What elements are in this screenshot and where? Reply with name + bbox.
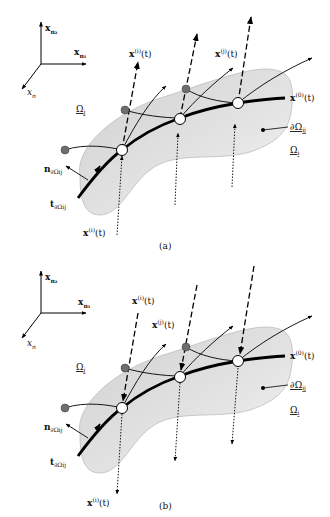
label-xj-i: x(i)(t) [132,294,155,306]
label-x-i: x(i)(t) [83,226,106,238]
label-normal: n∂Ωij [44,422,63,434]
label-omega-i: Ωi [290,405,299,416]
label-boundary: ∂Ωij [290,122,306,134]
label-normal: n∂Ωij [44,164,63,176]
label-x-i: x(i)(t) [87,496,110,508]
caption-a: (a) [159,241,171,251]
panel-a: xn₂ xn₁ xn [0,0,330,258]
label-x-j: x(j)(t) [152,318,175,330]
axis-label-xn1: xn₁ [74,47,87,59]
diagram-a: xn₂ xn₁ xn [0,0,330,258]
caption-b: (b) [159,501,172,511]
axis-label-xn2: xn₂ [45,23,58,35]
panel-b: xn₂ xn₁ xn [0,258,330,517]
label-x-0: x(0)(t) [290,91,315,103]
coordinate-axes: xn₂ xn₁ xn [22,22,87,99]
label-x-0: x(0)(t) [290,349,315,361]
axis-label-xn1: xn₁ [78,297,91,309]
coordinate-axes: xn₂ xn₁ xn [22,271,91,350]
axis-label-xn: xn [27,87,36,99]
axis-label-xn2: xn₂ [45,272,58,284]
label-tangent: t∂Ωij [50,199,66,211]
diagram-b: xn₂ xn₁ xn [0,258,330,517]
label-boundary: ∂Ωij [290,380,306,392]
label-x-j: x(j)(t) [215,47,238,59]
label-tangent: t∂Ωij [50,457,66,469]
label-omega-i: Ωi [290,145,299,156]
label-omega-j: Ωj [76,362,85,374]
axis-label-xn: xn [27,338,36,350]
label-xj-i: x(i)(t) [129,47,152,59]
label-omega-j: Ωj [76,104,85,116]
